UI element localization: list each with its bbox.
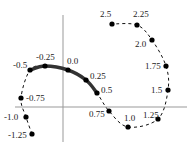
- point-marker: [163, 63, 168, 68]
- point-label: -1.0: [4, 112, 19, 122]
- point-marker: [106, 108, 111, 113]
- point-label: -0.75: [26, 93, 45, 103]
- point-label: 2.0: [135, 39, 147, 49]
- point-marker: [134, 22, 139, 27]
- point-marker: [23, 114, 28, 119]
- point-marker: [125, 124, 130, 129]
- point-marker: [109, 21, 114, 26]
- point-label: -0.5: [13, 60, 28, 70]
- point-label: 0.5: [101, 85, 113, 95]
- point-marker: [165, 87, 170, 92]
- point-marker: [149, 37, 154, 42]
- point-label: 2.5: [100, 9, 112, 19]
- point-label: 1.0: [124, 113, 136, 123]
- point-label: 1.25: [143, 110, 159, 120]
- point-marker: [65, 67, 70, 72]
- point-label: 0.75: [89, 109, 105, 119]
- curve-diagram: -1.25-1.0-0.75-0.5-0.250.00.250.50.751.0…: [0, 0, 187, 149]
- point-marker: [94, 90, 99, 95]
- point-label: 1.75: [145, 61, 161, 71]
- point-marker: [18, 95, 23, 100]
- point-label: 1.5: [151, 85, 163, 95]
- point-marker: [27, 67, 32, 72]
- point-marker: [83, 77, 88, 82]
- point-label: 0.0: [67, 56, 79, 66]
- point-marker: [42, 63, 47, 68]
- point-label: -1.25: [8, 130, 27, 140]
- point-label: -0.25: [36, 52, 55, 62]
- point-label: 0.25: [90, 71, 106, 81]
- point-label: 2.25: [133, 9, 149, 19]
- point-marker: [29, 131, 34, 136]
